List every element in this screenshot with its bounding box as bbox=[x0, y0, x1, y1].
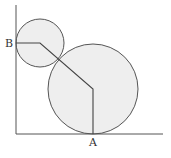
label-a: A bbox=[88, 136, 98, 149]
label-b: B bbox=[5, 37, 13, 50]
diagram-canvas: B A bbox=[0, 0, 171, 158]
